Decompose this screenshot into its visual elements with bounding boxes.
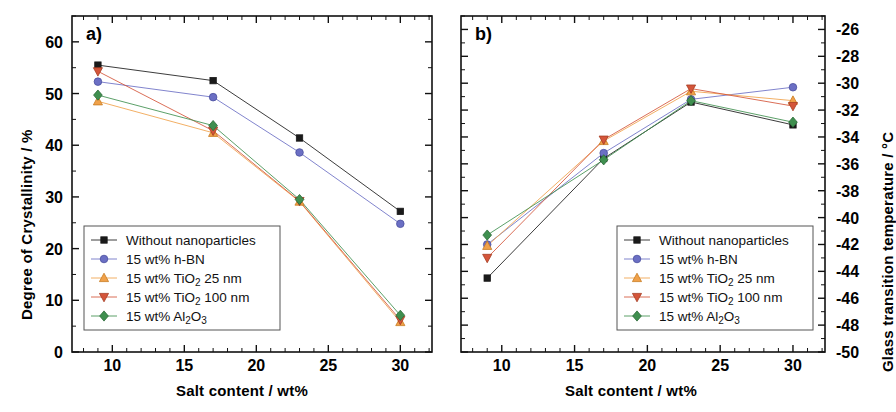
panel-tag: a) [86, 24, 102, 44]
data-point [101, 237, 107, 243]
data-point [94, 78, 102, 86]
x-tick-label: 15 [566, 357, 584, 374]
x-tick-label: 20 [247, 357, 265, 374]
data-point [296, 149, 304, 157]
y-tick-label: -48 [836, 317, 859, 334]
legend-label: 15 wt% TiO2 25 nm [659, 271, 775, 288]
y-tick-label: 50 [45, 86, 63, 103]
data-point [484, 275, 490, 281]
legend-label: Without nanoparticles [659, 233, 789, 248]
x-axis-title-b: Salt content / wt% [565, 382, 697, 399]
legend-label: 15 wt% TiO2 25 nm [126, 271, 242, 288]
chart-a-canvas: 10152025300102030405060a)Without nanopar… [0, 0, 447, 412]
y-axis-title-a: Degree of Crystallinity / % [18, 130, 35, 320]
legend-label: 15 wt% h-BN [126, 252, 205, 267]
data-point [483, 254, 492, 262]
data-point [634, 237, 640, 243]
y-tick-label: 0 [54, 344, 63, 361]
x-axis-title-a: Salt content / wt% [176, 382, 308, 399]
y-tick-label: -46 [836, 290, 859, 307]
y-tick-label: -32 [836, 102, 859, 119]
series-line [98, 65, 400, 211]
y-tick-label: 40 [45, 137, 63, 154]
chart-panel-b: 1015202530-26-28-30-32-34-36-38-40-42-44… [447, 0, 895, 412]
data-point [296, 135, 302, 141]
x-tick-label: 10 [103, 357, 121, 374]
series-line [487, 87, 793, 244]
x-tick-label: 30 [391, 357, 409, 374]
legend-label: 15 wt% TiO2 100 nm [126, 290, 249, 307]
x-tick-label: 25 [711, 357, 729, 374]
data-point [209, 93, 217, 101]
legend-label: Without nanoparticles [126, 233, 256, 248]
data-point [788, 102, 797, 110]
data-point [789, 83, 797, 91]
series-line [98, 82, 400, 224]
y-tick-label: -26 [836, 21, 859, 38]
y-tick-label: -30 [836, 75, 859, 92]
y-tick-label: 10 [45, 292, 63, 309]
x-tick-label: 20 [638, 357, 656, 374]
y-tick-label: -38 [836, 183, 859, 200]
legend-label: 15 wt% TiO2 100 nm [659, 290, 782, 307]
legend-label: 15 wt% h-BN [659, 252, 738, 267]
legend-label: 15 wt% Al2O3 [659, 309, 740, 326]
data-point [100, 255, 108, 263]
y-tick-label: -50 [836, 344, 859, 361]
x-tick-label: 15 [175, 357, 193, 374]
y-tick-label: -36 [836, 156, 859, 173]
y-tick-label: -44 [836, 263, 859, 280]
data-point [483, 230, 492, 240]
y-tick-label: -34 [836, 129, 859, 146]
x-tick-label: 30 [784, 357, 802, 374]
x-tick-label: 10 [493, 357, 511, 374]
y-tick-label: -42 [836, 236, 859, 253]
data-point [633, 255, 641, 263]
y-tick-label: -28 [836, 48, 859, 65]
data-point [210, 77, 216, 83]
data-point [397, 220, 405, 228]
y-tick-label: -40 [836, 210, 859, 227]
y-tick-label: 30 [45, 189, 63, 206]
data-point [94, 90, 103, 100]
panel-tag: b) [475, 24, 492, 44]
chart-b-canvas: 1015202530-26-28-30-32-34-36-38-40-42-44… [447, 0, 895, 412]
x-tick-label: 25 [319, 357, 337, 374]
y-tick-label: 60 [45, 34, 63, 51]
y-axis-title-b: Glass transition temperature / °C [879, 132, 896, 372]
legend-label: 15 wt% Al2O3 [126, 309, 207, 326]
chart-panel-a: 10152025300102030405060a)Without nanopar… [0, 0, 447, 412]
data-point [93, 68, 102, 76]
y-tick-label: 20 [45, 241, 63, 258]
data-point [397, 208, 403, 214]
